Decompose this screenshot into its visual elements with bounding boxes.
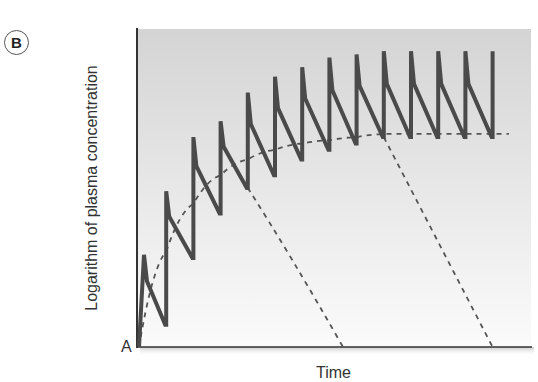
plot-shadow — [140, 347, 534, 356]
plot-area — [137, 29, 531, 347]
